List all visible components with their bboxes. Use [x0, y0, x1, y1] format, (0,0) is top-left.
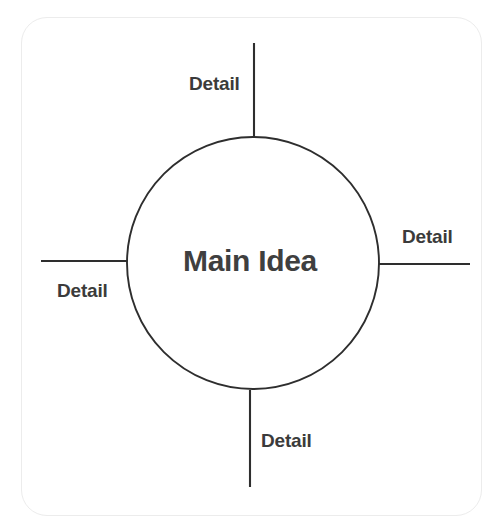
detail-label-bottom: Detail [261, 431, 312, 451]
detail-label-top: Detail [189, 74, 240, 94]
main-idea-label: Main Idea [0, 244, 500, 278]
detail-label-left: Detail [57, 281, 108, 301]
detail-label-right: Detail [402, 227, 453, 247]
diagram-canvas: Main Idea Detail Detail Detail Detail [0, 0, 500, 527]
